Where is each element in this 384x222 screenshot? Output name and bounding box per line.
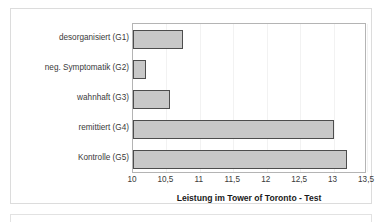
category-label: desorganisiert (G1) (59, 33, 129, 43)
lower-frame (10, 214, 372, 222)
bar-row (133, 24, 365, 54)
gridline (367, 24, 368, 172)
x-axis-tick-labels: 1010,51111,51212,51313,5 (132, 175, 366, 187)
x-tick-label: 13,5 (358, 175, 374, 184)
category-label: remittiert (G4) (79, 123, 130, 133)
bar-row (133, 114, 365, 144)
category-axis-labels: desorganisiert (G1)neg. Symptomatik (G2)… (23, 23, 129, 173)
x-tick-label: 12,5 (291, 175, 307, 184)
bar-row (133, 144, 365, 174)
category-label: neg. Symptomatik (G2) (45, 63, 129, 73)
category-label: wahnhaft (G3) (77, 93, 129, 103)
bar (133, 150, 347, 169)
bar (133, 60, 146, 79)
x-tick-label: 10 (127, 175, 136, 184)
x-tick-label: 13 (328, 175, 337, 184)
x-tick-label: 12 (261, 175, 270, 184)
bar (133, 120, 334, 139)
category-label: Kontrolle (G5) (78, 153, 129, 163)
bar-row (133, 84, 365, 114)
x-tick-label: 10,5 (157, 175, 173, 184)
bar-row (133, 54, 365, 84)
x-tick-label: 11 (195, 175, 204, 184)
figure-frame: desorganisiert (G1)neg. Symptomatik (G2)… (10, 8, 372, 204)
plot-area (132, 23, 366, 173)
bar (133, 30, 183, 49)
x-axis-title: Leistung im Tower of Toronto - Test (132, 193, 366, 203)
chart-screenshot: desorganisiert (G1)neg. Symptomatik (G2)… (0, 0, 384, 222)
bar (133, 90, 170, 109)
x-tick-label: 11,5 (225, 175, 240, 184)
bars-layer (133, 24, 365, 172)
